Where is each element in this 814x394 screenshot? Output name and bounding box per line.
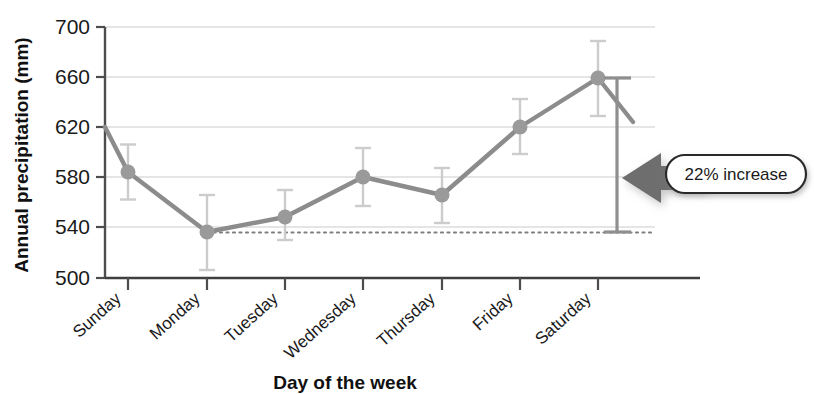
chart-figure: 700 660 620 580 540 500 Sunday Monday Tu… bbox=[0, 0, 814, 394]
axis-lines bbox=[105, 27, 700, 278]
x-tick-labels: Sunday Monday Tuesday Wednesday Thursday… bbox=[69, 289, 595, 363]
gridlines bbox=[105, 27, 655, 227]
x-axis-title: Day of the week bbox=[273, 372, 417, 393]
y-tick-label: 500 bbox=[55, 266, 90, 289]
y-tick-label: 700 bbox=[55, 15, 90, 38]
x-tick-marks bbox=[128, 278, 598, 290]
measurement-bar bbox=[604, 78, 631, 232]
x-tick-label-monday: Monday bbox=[146, 289, 204, 344]
data-point-friday[interactable] bbox=[513, 120, 528, 135]
data-point-monday[interactable] bbox=[200, 225, 215, 240]
y-tick-marks bbox=[96, 27, 105, 278]
y-tick-label: 660 bbox=[55, 65, 90, 88]
data-line bbox=[105, 78, 633, 232]
data-point-saturday[interactable] bbox=[591, 71, 606, 86]
y-tick-label: 580 bbox=[55, 165, 90, 188]
data-point-tuesday[interactable] bbox=[278, 210, 293, 225]
x-tick-label-tuesday: Tuesday bbox=[221, 289, 282, 347]
y-tick-label: 540 bbox=[55, 215, 90, 238]
y-axis-title: Annual precipitation (mm) bbox=[11, 37, 32, 272]
error-bars bbox=[120, 41, 606, 270]
x-tick-label-wednesday: Wednesday bbox=[280, 289, 360, 363]
y-tick-label: 620 bbox=[55, 115, 90, 138]
x-tick-label-thursday: Thursday bbox=[373, 289, 439, 351]
data-point-thursday[interactable] bbox=[435, 188, 450, 203]
y-tick-labels: 700 660 620 580 540 500 bbox=[55, 15, 90, 289]
data-point-wednesday[interactable] bbox=[356, 170, 371, 185]
data-point-sunday[interactable] bbox=[121, 165, 136, 180]
callout-label: 22% increase bbox=[684, 165, 787, 184]
x-tick-label-sunday: Sunday bbox=[69, 289, 125, 342]
x-tick-label-friday: Friday bbox=[469, 289, 517, 335]
precipitation-line-chart: 700 660 620 580 540 500 Sunday Monday Tu… bbox=[0, 0, 814, 394]
x-tick-label-saturday: Saturday bbox=[531, 289, 595, 349]
